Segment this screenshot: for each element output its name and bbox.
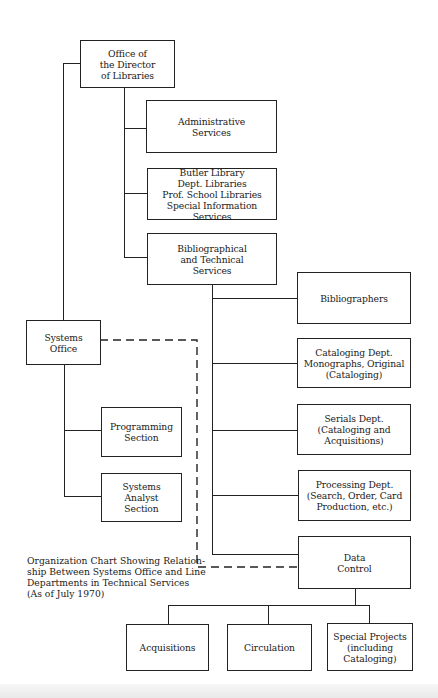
node-programming-section: Programming Section: [101, 407, 182, 457]
node-processing-dept: Processing Dept. (Search, Order, Card Pr…: [298, 470, 411, 521]
node-circulation: Circulation: [227, 624, 312, 671]
node-bibliographers: Bibliographers: [297, 272, 411, 324]
node-systems-office: Systems Office: [26, 320, 101, 365]
node-acquisitions: Acquisitions: [126, 624, 209, 671]
node-butler-library: Butler Library Dept. Libraries Prof. Sch…: [147, 168, 277, 220]
node-bibliographical-technical: Bibliographical and Technical Services: [147, 233, 277, 285]
page-edge-shadow: [0, 684, 438, 698]
node-systems-analyst-section: Systems Analyst Section: [101, 473, 182, 522]
chart-caption: Organization Chart Showing Relation- shi…: [27, 555, 206, 599]
node-special-projects: Special Projects (including Cataloging): [327, 623, 413, 671]
node-cataloging-dept: Cataloging Dept. Monographs, Original (C…: [297, 338, 411, 388]
node-data-control: Data Control: [298, 536, 411, 589]
node-director: Office of the Director of Libraries: [80, 40, 175, 88]
node-serials-dept: Serials Dept. (Cataloging and Acquisitio…: [297, 404, 411, 455]
node-administrative-services: Administrative Services: [146, 100, 277, 153]
